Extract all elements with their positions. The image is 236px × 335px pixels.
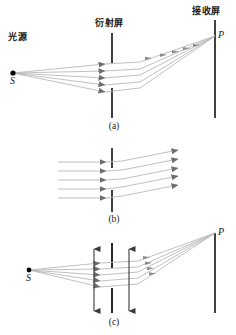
panel-b-caption: (b) xyxy=(104,214,124,224)
panel-b-ray-out-1 xyxy=(122,150,178,161)
diffraction-screen-label: 衍射屏 xyxy=(95,16,124,29)
panel-a-group xyxy=(10,20,215,118)
panel-c-caption: (c) xyxy=(104,317,124,327)
panel-c-ray-ap-3 xyxy=(100,272,138,275)
panel-a-source-label: S xyxy=(10,75,15,86)
panel-a-caption: (a) xyxy=(104,121,124,131)
panel-c-ray-out-4 xyxy=(138,233,215,278)
panel-b-incoming-rays xyxy=(58,162,106,198)
diffraction-figure: 光源 衍射屏 接收屏 S P S P (a) (b) (c) xyxy=(0,0,236,335)
panel-a-ray-ap-5 xyxy=(105,88,140,92)
panel-c-ray-ap-5 xyxy=(100,284,138,287)
panel-c-ray-ap-1 xyxy=(100,261,138,263)
light-source-label: 光源 xyxy=(8,30,27,43)
panel-a-aperture-rays xyxy=(105,62,140,92)
panel-b-ray-out-2 xyxy=(122,159,178,170)
panel-b-group xyxy=(58,148,178,212)
panel-a-ray-out-2 xyxy=(140,36,215,69)
panel-c-ray-out-1 xyxy=(138,233,215,261)
panel-b-ray-ap-1 xyxy=(106,161,122,162)
panel-a-ray-in-4 xyxy=(13,73,105,85)
panel-a-incoming-rays xyxy=(13,64,105,92)
panel-a-ray-ap-3 xyxy=(105,75,140,78)
receiving-screen-label: 接收屏 xyxy=(192,4,221,17)
panel-c-incoming-rays xyxy=(29,263,100,287)
panel-a-ray-out-4 xyxy=(140,36,215,82)
panel-a-ray-ap-2 xyxy=(105,69,140,71)
panel-c-group xyxy=(27,233,215,313)
panel-c-ray-ap-2 xyxy=(100,267,138,269)
panel-a-outgoing-rays xyxy=(140,36,215,88)
panel-c-outgoing-rays xyxy=(138,233,215,284)
panel-b-ray-ap-5 xyxy=(106,196,122,198)
panel-a-ray-out-3 xyxy=(140,36,215,75)
panel-a-ray-out-5 xyxy=(140,36,215,88)
panel-c-ray-out-3 xyxy=(138,233,215,272)
panel-b-ray-ap-4 xyxy=(106,187,122,189)
diffraction-diagram-svg xyxy=(0,0,236,335)
panel-c-aperture-rays xyxy=(100,261,138,287)
panel-a-ray-ap-4 xyxy=(105,82,140,85)
panel-c-source-label: S xyxy=(26,272,31,283)
panel-b-ray-out-5 xyxy=(122,185,178,196)
panel-c-ray-out-2 xyxy=(138,233,215,267)
panel-b-ray-ap-3 xyxy=(106,179,122,180)
panel-a-point-p-label: P xyxy=(218,29,224,40)
panel-c-ray-ap-4 xyxy=(100,278,138,281)
panel-a-ray-ap-1 xyxy=(105,62,140,64)
panel-b-aperture-rays xyxy=(106,161,122,198)
panel-c-ray-in-4 xyxy=(29,270,100,281)
panel-b-outgoing-rays xyxy=(122,150,178,196)
panel-c-point-p-label: P xyxy=(218,226,224,237)
panel-b-ray-ap-2 xyxy=(106,170,122,171)
panel-c-ray-out-5 xyxy=(138,233,215,284)
